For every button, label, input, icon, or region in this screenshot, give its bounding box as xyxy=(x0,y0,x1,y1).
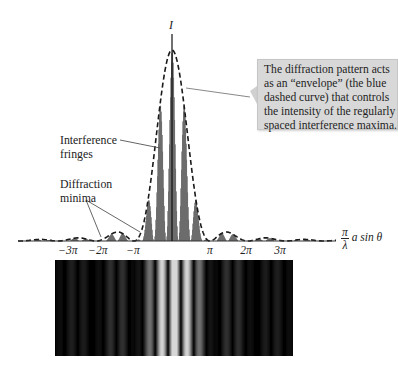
fringe-bands xyxy=(55,260,293,356)
callout-line: dashed curve) that controls xyxy=(264,91,393,105)
interference-fringes-label: Interference fringes xyxy=(60,133,117,161)
callout-leader xyxy=(186,88,250,97)
x-tick-label: 3π xyxy=(274,244,286,256)
x-tick-label: −3π xyxy=(58,244,77,256)
label-line: minima xyxy=(60,191,96,205)
x-tick-label: −2π xyxy=(88,244,107,256)
x-tick-label: π xyxy=(207,244,213,256)
label-line: fringes xyxy=(60,147,93,161)
pi-over-lambda: π λ xyxy=(341,226,349,251)
x-tick-label: −π xyxy=(126,244,140,256)
interference-leader xyxy=(120,140,160,148)
fraction-numerator: π xyxy=(341,226,349,239)
x-tick-label: 2π xyxy=(240,244,252,256)
fraction-denominator: λ xyxy=(341,239,349,251)
label-line: Interference xyxy=(60,133,117,147)
label-line: Diffraction xyxy=(60,177,112,191)
callout-line: spaced interference maxima. xyxy=(264,119,393,133)
fringe-pattern-photo xyxy=(55,260,293,356)
diffraction-minima-label: Diffraction minima xyxy=(60,177,112,205)
minima-leader-1 xyxy=(86,200,101,237)
envelope-callout: The diffraction pattern acts as an “enve… xyxy=(257,59,398,130)
callout-pointer xyxy=(250,86,257,104)
callout-line: the intensity of the regularly xyxy=(264,105,393,119)
callout-line: The diffraction pattern acts xyxy=(264,63,393,77)
x-axis-label: π λ a sin θ xyxy=(341,226,382,251)
callout-line: as an “envelope” (the blue xyxy=(264,77,393,91)
axis-expression: a sin θ xyxy=(352,231,383,243)
intensity-axis-label: I xyxy=(169,18,173,33)
